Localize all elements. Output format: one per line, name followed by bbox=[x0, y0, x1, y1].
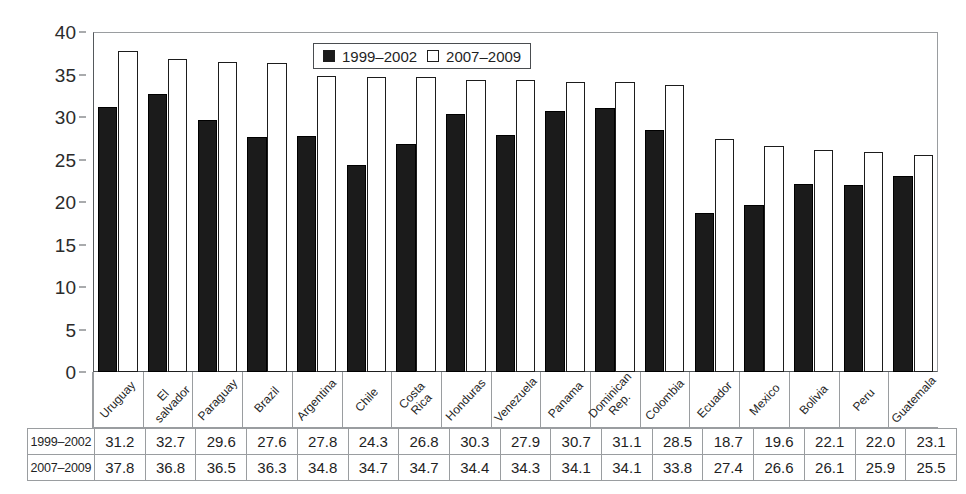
table-cell: 34.3 bbox=[500, 455, 551, 481]
table-cell: 27.8 bbox=[297, 429, 348, 455]
category-label-line: Panama bbox=[545, 378, 586, 420]
category-label: Honduras bbox=[444, 376, 489, 423]
table-cell: 22.0 bbox=[855, 429, 906, 455]
y-axis-tick-mark bbox=[79, 32, 86, 33]
table-cell: 26.1 bbox=[804, 455, 855, 481]
category-label: Bolivia bbox=[797, 382, 831, 417]
legend-item-2007-2009: 2007–2009 bbox=[427, 48, 521, 65]
category-label-line: Uruguay bbox=[97, 378, 138, 421]
table-cell: 23.1 bbox=[906, 429, 957, 455]
y-axis-tick-label: 20 bbox=[55, 193, 76, 212]
table-cell: 36.8 bbox=[145, 455, 196, 481]
category-label-line: Paraguay bbox=[195, 376, 240, 423]
table-cell: 27.9 bbox=[500, 429, 551, 455]
table-cell: 26.8 bbox=[399, 429, 450, 455]
table-cell: 31.2 bbox=[95, 429, 146, 455]
y-axis-tick-label: 15 bbox=[55, 235, 76, 254]
y-axis-tick-label: 40 bbox=[55, 23, 76, 42]
table-cell: 24.3 bbox=[348, 429, 399, 455]
y-axis-tick-label: 30 bbox=[55, 108, 76, 127]
table-cell: 30.3 bbox=[449, 429, 500, 455]
table-row: 2007–200937.836.836.536.334.834.734.734.… bbox=[28, 455, 957, 481]
chart-legend: 1999–2002 2007–2009 bbox=[313, 43, 531, 69]
data-table: 1999–200231.232.729.627.627.824.326.830.… bbox=[27, 428, 957, 481]
table-cell: 33.8 bbox=[652, 455, 703, 481]
table-row-header: 1999–2002 bbox=[28, 429, 95, 455]
y-axis-tick-label: 35 bbox=[55, 65, 76, 84]
legend-swatch-light-icon bbox=[427, 50, 439, 62]
category-label-line: Peru bbox=[850, 385, 878, 413]
table-cell: 34.8 bbox=[297, 455, 348, 481]
table-cell: 18.7 bbox=[703, 429, 754, 455]
y-axis-tick-label: 25 bbox=[55, 150, 76, 169]
table-cell: 26.6 bbox=[754, 455, 805, 481]
category-cell: Peru bbox=[839, 372, 889, 428]
category-label: Ecuador bbox=[695, 379, 735, 421]
category-cell: Honduras bbox=[441, 372, 491, 428]
category-label-line: Chile bbox=[352, 384, 381, 414]
table-cell: 36.5 bbox=[196, 455, 247, 481]
table-row-header: 2007–2009 bbox=[28, 455, 95, 481]
table-cell: 37.8 bbox=[95, 455, 146, 481]
table-cell: 30.7 bbox=[551, 429, 602, 455]
category-label-line: Colombia bbox=[642, 376, 687, 423]
table-cell: 22.1 bbox=[804, 429, 855, 455]
category-label-line: Ecuador bbox=[694, 378, 735, 420]
category-cell: Ecuador bbox=[689, 372, 739, 428]
category-label: Venezuela bbox=[492, 375, 540, 425]
y-axis-tick-mark bbox=[79, 244, 86, 245]
table-cell: 27.6 bbox=[247, 429, 298, 455]
bar-chart-figure: 0510152025303540 1999–2002 2007–2009 Uru… bbox=[0, 0, 966, 494]
data-table-body: 1999–200231.232.729.627.627.824.326.830.… bbox=[28, 429, 957, 481]
category-label: Elsalvador bbox=[143, 374, 193, 425]
y-axis-tick-label: 10 bbox=[55, 278, 76, 297]
table-cell: 19.6 bbox=[754, 429, 805, 455]
y-axis-tick-mark bbox=[79, 74, 86, 75]
y-axis-tick-mark bbox=[79, 287, 86, 288]
category-strip-spacer bbox=[27, 372, 93, 428]
table-cell: 31.1 bbox=[602, 429, 653, 455]
category-label: Colombia bbox=[643, 377, 687, 423]
category-label: Mexico bbox=[747, 381, 782, 418]
plot-area bbox=[93, 32, 938, 372]
y-axis-tick-mark bbox=[79, 329, 86, 330]
y-axis-tick-label: 5 bbox=[65, 320, 76, 339]
category-label: CostaRica bbox=[396, 379, 436, 420]
category-label: Brazil bbox=[252, 384, 282, 415]
table-cell: 36.3 bbox=[247, 455, 298, 481]
table-cell: 25.9 bbox=[855, 455, 906, 481]
category-labels-strip: UruguayElsalvadorParaguayBrazilArgentina… bbox=[27, 372, 938, 428]
category-cell: Brazil bbox=[242, 372, 292, 428]
category-label: Peru bbox=[851, 386, 878, 413]
category-cell: Elsalvador bbox=[143, 372, 193, 428]
category-cell: Mexico bbox=[739, 372, 789, 428]
category-cell: Panama bbox=[540, 372, 590, 428]
table-cell: 34.7 bbox=[399, 455, 450, 481]
y-axis-tick-mark bbox=[79, 202, 86, 203]
category-label-line: Brazil bbox=[252, 383, 283, 415]
table-cell: 29.6 bbox=[196, 429, 247, 455]
category-label-line: Bolivia bbox=[797, 381, 831, 416]
y-axis-tick-mark bbox=[79, 159, 86, 160]
category-label: Chile bbox=[353, 385, 381, 414]
table-cell: 25.5 bbox=[906, 455, 957, 481]
category-cell: CostaRica bbox=[391, 372, 441, 428]
category-label-line: Argentina bbox=[294, 376, 339, 423]
table-cell: 27.4 bbox=[703, 455, 754, 481]
category-cell: Paraguay bbox=[192, 372, 242, 428]
category-cell: Uruguay bbox=[93, 372, 143, 428]
table-cell: 28.5 bbox=[652, 429, 703, 455]
category-cell: Colombia bbox=[640, 372, 690, 428]
category-label: Panama bbox=[546, 379, 586, 421]
category-label: Uruguay bbox=[98, 378, 138, 420]
table-cell: 34.4 bbox=[449, 455, 500, 481]
category-cell: Chile bbox=[342, 372, 392, 428]
category-label-line: Honduras bbox=[443, 375, 489, 423]
table-cell: 34.1 bbox=[602, 455, 653, 481]
legend-item-1999-2002: 1999–2002 bbox=[323, 48, 417, 65]
category-label-line: Guatemala bbox=[888, 373, 938, 425]
legend-label-1999-2002: 1999–2002 bbox=[342, 48, 417, 65]
legend-label-2007-2009: 2007–2009 bbox=[446, 48, 521, 65]
category-label: Guatemala bbox=[889, 374, 939, 426]
category-label: Argentina bbox=[295, 376, 340, 422]
